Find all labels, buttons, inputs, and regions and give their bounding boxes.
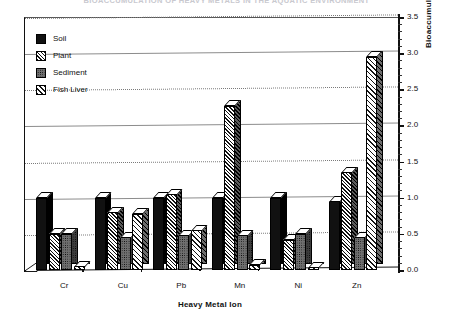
bar-front-face [107,212,118,270]
bar-front-face [153,198,164,270]
bar-pb-plant [166,194,177,270]
bar-ni-soil [270,198,281,270]
bar-ni-sediment [295,234,306,270]
bar-front-face [354,237,365,270]
bar-front-face [237,235,248,270]
bar-mn-plant [224,106,235,270]
bar-mn-fish-liver [249,265,260,270]
bar-cu-soil [95,198,106,270]
bar-front-face [36,198,47,270]
bar-cu-plant [107,212,118,270]
bars-layer [0,0,453,323]
bar-mn-sediment [237,235,248,270]
bar-cr-plant [49,234,60,270]
bar-front-face [212,198,223,270]
bar-mn-soil [212,198,223,270]
bar-front-face [283,240,294,270]
bar-zn-sediment [354,237,365,270]
bar-side-face [72,228,78,264]
bar-front-face [270,198,281,270]
bar-front-face [49,234,60,270]
bar-front-face [224,106,235,270]
bar-front-face [341,172,352,270]
bar-side-face [377,51,383,264]
bar-front-face [132,214,143,270]
bar-front-face [249,265,260,270]
bar-pb-fish-liver [191,230,202,270]
bar-cu-fish-liver [132,214,143,270]
bar-ni-fish-liver [308,267,319,270]
bar-cu-sediment [120,237,131,270]
bar-side-face [306,228,312,264]
bar-pb-sediment [178,235,189,270]
bar-side-face [202,225,208,265]
bar-zn-fish-liver [366,57,377,270]
bar-front-face [74,266,85,270]
bar-zn-soil [329,201,340,270]
bar-front-face [191,230,202,270]
bar-pb-soil [153,198,164,270]
bar-front-face [329,201,340,270]
bar-cr-fish-liver [74,266,85,270]
bar-side-face [143,208,149,264]
bar-zn-plant [341,172,352,270]
bar-front-face [366,57,377,270]
bar-front-face [308,267,319,270]
bar-front-face [178,235,189,270]
bar-front-face [95,198,106,270]
bar-front-face [120,237,131,270]
bar-cr-soil [36,198,47,270]
bar-front-face [295,234,306,270]
bar-cr-sediment [61,234,72,270]
bar-front-face [61,234,72,270]
bar-front-face [166,194,177,270]
bar-ni-plant [283,240,294,270]
